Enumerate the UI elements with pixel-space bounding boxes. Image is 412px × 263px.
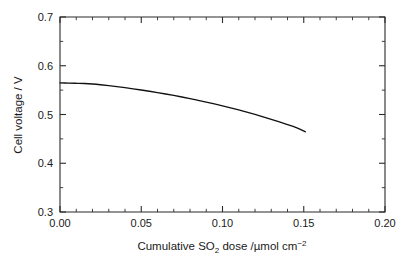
x-tick-label: 0.10 [212,217,233,229]
x-axis-title-main: Cumulative SO [137,240,214,252]
line-chart: 0.000.050.100.150.20 0.30.40.50.60.7 Cum… [0,0,412,263]
data-series-cell-voltage [60,83,305,132]
y-tick-label: 0.3 [38,206,53,218]
x-axis-tick-labels: 0.000.050.100.150.20 [49,217,395,229]
y-axis-ticks [60,17,385,212]
x-axis-ticks [60,17,385,212]
x-axis-title: Cumulative SO2 dose /µmol cm−2 [137,239,307,255]
y-tick-label: 0.7 [38,11,53,23]
plot-frame [60,17,385,212]
y-tick-label: 0.6 [38,60,53,72]
y-tick-label: 0.5 [38,109,53,121]
x-tick-label: 0.20 [374,217,395,229]
x-tick-label: 0.15 [293,217,314,229]
x-tick-label: 0.05 [131,217,152,229]
y-tick-label: 0.4 [38,157,53,169]
chart-figure: 0.000.050.100.150.20 0.30.40.50.60.7 Cum… [0,0,412,263]
x-axis-title-mid: dose /µmol cm [219,240,297,252]
x-tick-label: 0.00 [49,217,70,229]
y-axis-tick-labels: 0.30.40.50.60.7 [38,11,53,218]
x-axis-title-superscript: −2 [297,239,307,248]
y-axis-title: Cell voltage / V [12,76,24,154]
axes-box [60,17,385,212]
